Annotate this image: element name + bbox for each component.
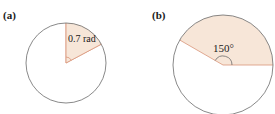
angle-label-a: 0.7 rad (68, 33, 96, 44)
circle-sector-diagram: (a) 0.7 rad (b) 150° (0, 0, 275, 114)
angle-label-b: 150° (213, 42, 234, 54)
panel-b-label: (b) (152, 9, 166, 22)
panel-a-label: (a) (3, 9, 16, 22)
panel-a: (a) 0.7 rad (3, 9, 106, 103)
panel-b: (b) 150° (152, 9, 273, 114)
sector-b (180, 15, 273, 65)
